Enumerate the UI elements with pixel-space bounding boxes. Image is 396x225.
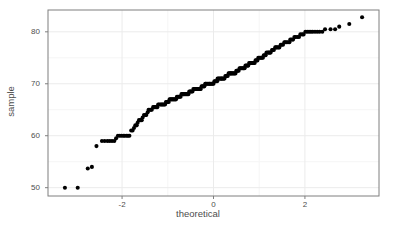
data-point <box>328 27 332 31</box>
data-point <box>360 15 364 19</box>
qq-plot-figure: -20250607080 theoretical sample <box>0 0 396 225</box>
data-point <box>76 186 80 190</box>
y-tick-label: 50 <box>16 183 40 192</box>
data-point <box>90 165 94 169</box>
y-tick-label: 80 <box>16 27 40 36</box>
x-axis-title: theoretical <box>0 208 396 219</box>
data-point <box>86 166 90 170</box>
data-point <box>323 27 327 31</box>
data-point <box>63 186 67 190</box>
data-point <box>94 144 98 148</box>
data-point <box>127 134 131 138</box>
y-tick-label: 70 <box>16 79 40 88</box>
data-point <box>337 25 341 29</box>
data-point <box>333 27 337 31</box>
y-axis-title: sample <box>5 52 16 152</box>
data-point <box>347 22 351 26</box>
plot-canvas <box>0 0 396 225</box>
y-tick-label: 60 <box>16 131 40 140</box>
